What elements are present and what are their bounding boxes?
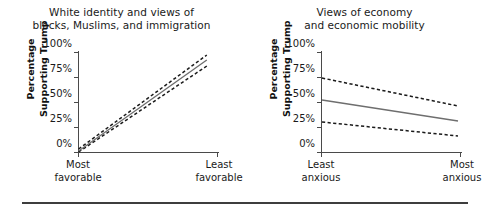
x-tick-labels-economy: Least anxious Most anxious [321, 158, 462, 190]
y-tick-label-100: 100% [286, 39, 315, 49]
x-tick-label-low: Least anxious [275, 158, 367, 184]
x-tick-label-high-line-1: Most [416, 158, 486, 171]
y-tick-label-50: 50% [50, 89, 72, 99]
x-tick-label-low-line-1: Most [32, 158, 124, 171]
x-tick-label-low: Most favorable [32, 158, 124, 184]
y-tick-label-25: 25% [293, 114, 315, 124]
figure-twin-line-charts: White identity and views of blacks, Musl… [0, 0, 486, 210]
series-predicted-white-identity [79, 60, 207, 151]
x-tick-label-low-line-2: anxious [275, 171, 367, 184]
y-tick-labels-economy: 0% 25% 50% 75% 100% [277, 44, 319, 160]
plot-area-economy [321, 52, 461, 152]
x-tick-label-high-line-2: anxious [416, 171, 486, 184]
x-tick-mark-high [460, 153, 461, 157]
y-tick-label-0: 0% [56, 139, 72, 149]
x-tick-labels-white-identity: Most favorable Least favorable [78, 158, 219, 190]
y-tick-label-50: 50% [293, 89, 315, 99]
series-group-economy [321, 52, 461, 152]
x-tick-label-high: Most anxious [416, 158, 486, 184]
x-tick-label-low-line-1: Least [275, 158, 367, 171]
x-tick-mark-low [78, 153, 79, 157]
series-lower-bound-white-identity [79, 66, 207, 152]
y-tick-label-0: 0% [299, 139, 315, 149]
bottom-divider-rule [22, 202, 468, 204]
y-tick-labels-white-identity: 0% 25% 50% 75% 100% [34, 44, 76, 160]
x-tick-label-low-line-2: favorable [32, 171, 124, 184]
panel-title-line-1: White identity and views of [8, 6, 235, 19]
x-tick-mark-high [217, 153, 218, 157]
series-upper-bound-white-identity [79, 55, 207, 149]
y-tick-label-100: 100% [43, 39, 72, 49]
plot-area-white-identity [78, 52, 218, 152]
y-tick-label-25: 25% [50, 114, 72, 124]
y-tick-label-75: 75% [293, 64, 315, 74]
x-tick-mark-low [321, 153, 322, 157]
series-predicted-economy [322, 100, 458, 121]
chart-panel-economy: Views of economy and economic mobility P… [243, 0, 486, 196]
series-lower-bound-economy [322, 122, 458, 136]
series-group-white-identity [78, 52, 218, 152]
y-tick-label-75: 75% [50, 64, 72, 74]
series-upper-bound-economy [322, 78, 458, 106]
panel-title-line-1: Views of economy [251, 6, 478, 19]
chart-panel-white-identity: White identity and views of blacks, Musl… [0, 0, 243, 196]
